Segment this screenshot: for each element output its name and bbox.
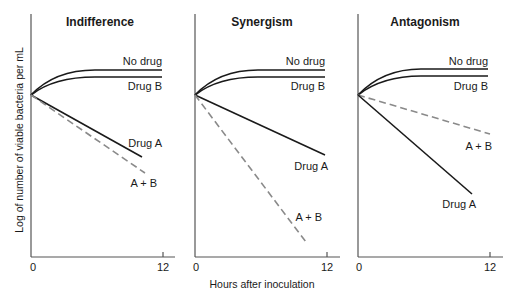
line-drug-a [358,95,472,194]
panel-title: Antagonism [390,15,459,29]
x-tick-label-0: 0 [30,261,36,273]
panel-title: Indifference [66,15,134,29]
label-a-plus-b: A + B [465,140,492,152]
line-drug-a [31,95,142,157]
label-no-drug: No drug [286,55,325,67]
panel-antagonism: Antagonism 0 12 No drug Drug B A + B Dru… [356,14,503,273]
x-tick-label-12: 12 [157,261,169,273]
label-drug-b: Drug B [454,80,488,92]
line-drug-a [195,95,325,155]
label-drug-b: Drug B [291,80,325,92]
line-a-plus-b [358,95,490,134]
panel-indifference: Indifference 0 12 No drug Drug B Drug A … [30,14,175,273]
panel-synergism: Synergism 0 12 No drug Drug B Drug A A +… [193,14,340,273]
x-axis-label: Hours after inoculation [209,278,314,290]
label-a-plus-b: A + B [130,177,157,189]
label-drug-a: Drug A [442,198,476,210]
line-a-plus-b [31,95,145,173]
label-no-drug: No drug [123,55,162,67]
x-tick-label-0: 0 [193,261,199,273]
label-a-plus-b: A + B [295,211,322,223]
label-no-drug: No drug [449,55,488,67]
line-a-plus-b [195,95,306,242]
x-tick-label-12: 12 [484,261,496,273]
label-drug-a: Drug A [294,160,328,172]
figure: Log of number of viable bacteria per mL … [0,0,511,295]
x-tick-label-12: 12 [321,261,333,273]
x-tick-label-0: 0 [356,261,362,273]
label-drug-b: Drug B [128,80,162,92]
panel-title: Synergism [231,15,292,29]
label-drug-a: Drug A [128,137,162,149]
y-axis-label: Log of number of viable bacteria per mL [13,47,25,233]
